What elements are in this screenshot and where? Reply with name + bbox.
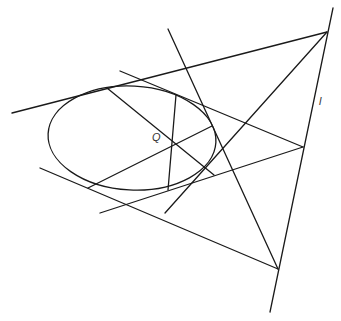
label-q: Q <box>152 131 161 143</box>
line-group <box>12 8 333 312</box>
top-tangent <box>12 32 327 113</box>
label-l: l <box>319 95 321 107</box>
ellipse <box>45 82 218 195</box>
bottom-tangent <box>40 168 278 269</box>
diagonal-to-top <box>165 32 327 213</box>
geometry-figure <box>0 0 341 321</box>
polar-line-l <box>270 8 333 312</box>
lower-secant <box>100 147 303 213</box>
diagram-canvas: Q l <box>0 0 341 321</box>
upper-secant <box>120 71 303 147</box>
chord-3 <box>88 126 212 188</box>
